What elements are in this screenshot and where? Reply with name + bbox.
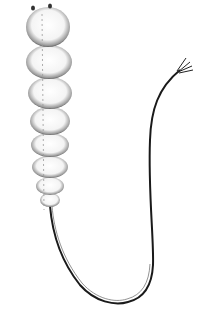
tail-tip [177,58,193,73]
larva-drawing [0,0,207,317]
body-segments [26,7,72,207]
illustration [0,0,207,317]
tail [50,70,180,303]
